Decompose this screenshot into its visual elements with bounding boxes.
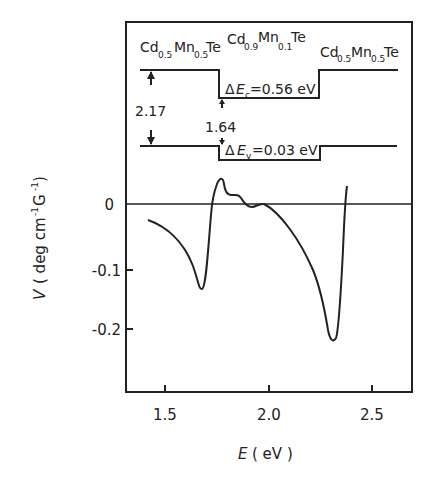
svg-text:Mn: Mn	[174, 39, 195, 55]
svg-text:): )	[31, 176, 49, 182]
svg-text:Te: Te	[290, 29, 306, 45]
center-gap-value: 1.64	[205, 119, 236, 135]
y-axis-ticks	[126, 270, 133, 329]
svg-text:-1: -1	[30, 207, 40, 216]
x-tick-label-2.5: 2.5	[360, 406, 384, 424]
svg-text:=0.03 eV: =0.03 eV	[252, 142, 318, 158]
svg-text:Te: Te	[383, 44, 399, 60]
x-tick-label-1.5: 1.5	[153, 406, 177, 424]
svg-text:E: E	[236, 81, 245, 97]
svg-text:Δ: Δ	[225, 142, 235, 158]
svg-text:Te: Te	[205, 39, 221, 55]
y-tick-label-0: 0	[104, 196, 114, 214]
left-gap-value: 2.17	[135, 103, 166, 119]
svg-text:Mn: Mn	[351, 44, 372, 60]
x-tick-label-2.0: 2.0	[257, 406, 281, 424]
center-material-label: Cd 0.9 Mn 0.1 Te	[227, 29, 306, 52]
verdet-curve	[148, 179, 347, 341]
delta-ev-label: Δ E v =0.03 eV	[225, 142, 318, 161]
svg-text:E: E	[237, 142, 246, 158]
svg-text:Cd: Cd	[227, 31, 246, 47]
verdet-chart: 0 -0.1 -0.2 1.5 2.0 2.5 E ( eV ) V ( deg…	[0, 0, 433, 477]
svg-text:G: G	[31, 194, 49, 206]
right-material-label: Cd 0.5 Mn 0.5 Te	[320, 44, 399, 64]
svg-text:V: V	[31, 288, 49, 300]
y-tick-label-minus-0.2: -0.2	[92, 321, 121, 339]
svg-text:0.9: 0.9	[244, 42, 259, 52]
left-material-label: Cd 0.5 Mn 0.5 Te	[140, 39, 221, 60]
x-axis-label: E ( eV )	[238, 445, 293, 463]
svg-text:Cd: Cd	[140, 39, 159, 55]
y-axis-label: V ( deg cm -1 G -1 )	[30, 176, 49, 300]
x-axis-ticks	[165, 385, 372, 392]
svg-text:( eV ): ( eV )	[252, 445, 293, 463]
svg-text:0.5: 0.5	[337, 54, 351, 64]
svg-text:( deg cm: ( deg cm	[31, 217, 49, 284]
svg-text:Cd: Cd	[320, 44, 339, 60]
svg-text:Δ: Δ	[225, 81, 235, 97]
svg-text:Mn: Mn	[258, 29, 279, 45]
svg-text:-1: -1	[30, 182, 40, 191]
svg-text:=0.56 eV: =0.56 eV	[250, 81, 316, 97]
svg-text:0.5: 0.5	[158, 50, 172, 60]
y-tick-label-minus-0.1: -0.1	[92, 262, 121, 280]
svg-text:E: E	[238, 445, 248, 463]
